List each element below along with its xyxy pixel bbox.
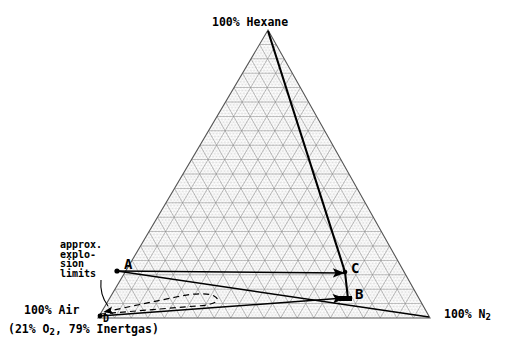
point-label-C: C [351, 260, 359, 276]
point-marker-D [98, 314, 103, 319]
vertex-label-hexane: 100% Hexane [212, 15, 288, 29]
annotation-approx-explosion-limits: approx.explo-sionlimits [60, 240, 102, 278]
air-composition-post: , 79% Inertgas) [55, 322, 159, 336]
point-marker-A [114, 268, 119, 273]
vertex-label-n2: 100% N2 [444, 307, 491, 322]
point-marker-B [339, 296, 352, 301]
point-label-A: A [124, 256, 132, 272]
vertex-label-n2-text: 100% N [444, 307, 486, 321]
vertex-label-air-composition: (21% O2, 79% Inertgas) [8, 322, 159, 337]
air-composition-pre: (21% O [8, 322, 50, 336]
A-to-C-arrow [117, 271, 344, 273]
point-label-D: D [103, 313, 109, 324]
vertex-label-air: 100% Air [24, 303, 79, 317]
ternary-diagram [0, 0, 516, 352]
vertex-label-n2-subscript: 2 [486, 312, 491, 322]
point-label-B: B [355, 286, 363, 302]
point-marker-C [343, 270, 348, 275]
annotation-line-4: limits [60, 269, 102, 279]
